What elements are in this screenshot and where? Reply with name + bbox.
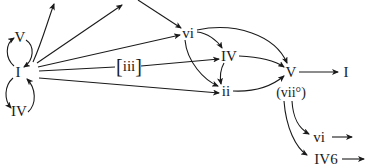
node-IV6: IV6 xyxy=(314,152,337,167)
edge-vii-to-vi xyxy=(292,101,309,134)
edge-vii-to-IV6 xyxy=(284,101,307,155)
edge-I-to-iii xyxy=(39,67,115,71)
edge-vi-to-ii xyxy=(185,40,218,86)
edge-IV-to-V xyxy=(239,56,284,67)
edge-iii-to-IV xyxy=(141,59,219,66)
node-I-left: I xyxy=(16,65,21,80)
bracket-close: ] xyxy=(135,55,142,77)
edge-I-to-ii xyxy=(39,78,219,93)
bracket-open: [ xyxy=(116,55,123,77)
node-vi: vi xyxy=(182,26,194,41)
edge-vi-to-V xyxy=(197,28,287,63)
edge-IV-to-ii xyxy=(220,63,224,84)
node-V-right: V xyxy=(286,65,297,80)
edge-I-to-vi xyxy=(38,35,180,67)
node-IV-left: IV xyxy=(11,104,27,119)
node-I-right: I xyxy=(344,65,349,80)
node-iii-label: iii xyxy=(123,58,136,74)
edge-vi-to-IV xyxy=(197,32,222,48)
edge-I-to-top-2 xyxy=(37,5,122,63)
node-iii: [iii] xyxy=(116,59,142,74)
node-ii: ii xyxy=(222,84,230,99)
edge-I-to-V-left xyxy=(7,38,14,66)
node-vi-lower: vi xyxy=(313,130,325,145)
edge-IV-to-I-left xyxy=(27,79,34,112)
node-vii-dim: (vii°) xyxy=(276,85,306,100)
edge-top-to-vi xyxy=(138,0,181,28)
node-IV-mid: IV xyxy=(221,49,237,64)
node-V-left: V xyxy=(15,30,26,45)
